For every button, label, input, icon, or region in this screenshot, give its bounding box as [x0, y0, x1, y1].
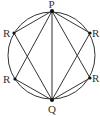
segment-q-r-upper-right — [52, 33, 90, 100]
label-r-lower-right: R — [92, 72, 100, 84]
label-r-lower-left: R — [3, 73, 11, 85]
point-r-lower-left — [13, 77, 16, 80]
label-q: Q — [48, 103, 56, 115]
label-p: P — [49, 0, 55, 10]
label-r-upper-right: R — [92, 27, 100, 39]
segment-p-r-lower-right — [52, 11, 90, 78]
segment-q-r-upper-left — [14, 33, 52, 100]
segments — [14, 11, 90, 100]
point-r-upper-left — [12, 31, 15, 34]
point-q — [50, 98, 54, 102]
circle-diagram: P Q R R R R — [0, 0, 100, 116]
label-r-upper-left: R — [3, 27, 11, 39]
